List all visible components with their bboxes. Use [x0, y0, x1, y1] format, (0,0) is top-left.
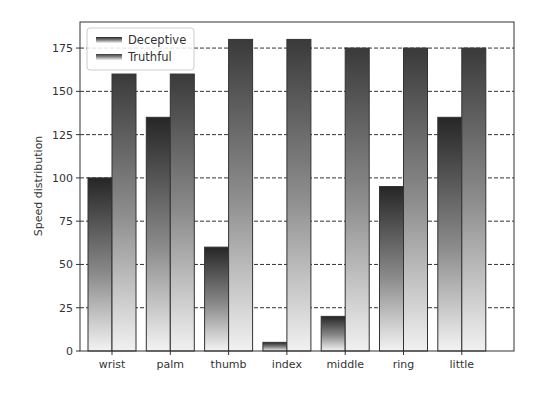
x-tick-label: thumb — [211, 358, 247, 371]
bars — [88, 39, 486, 351]
bar-deceptive-little — [438, 117, 462, 351]
y-tick-label: 150 — [52, 85, 73, 98]
y-tick-label: 75 — [59, 215, 73, 228]
bar-deceptive-ring — [380, 187, 404, 351]
y-tick-label: 125 — [52, 129, 73, 142]
bar-deceptive-index — [263, 342, 287, 351]
y-tick-label: 0 — [66, 345, 73, 358]
x-tick-label: palm — [157, 358, 185, 371]
bar-truthful-middle — [345, 48, 369, 351]
y-tick-label: 175 — [52, 42, 73, 55]
y-axis-label: Speed distribution — [32, 136, 45, 237]
x-tick-label: little — [450, 358, 475, 371]
bar-truthful-ring — [404, 48, 428, 351]
legend-label-deceptive: Deceptive — [128, 33, 186, 47]
bar-truthful-little — [462, 48, 486, 351]
legend: Deceptive Truthful — [87, 28, 194, 70]
x-tick-label: index — [272, 358, 303, 371]
x-tick-label: wrist — [99, 358, 126, 371]
bar-deceptive-middle — [321, 316, 345, 351]
x-tick-label: ring — [393, 358, 415, 371]
y-tick-label: 25 — [59, 302, 73, 315]
bar-deceptive-thumb — [205, 247, 229, 351]
bar-truthful-thumb — [229, 39, 253, 351]
bar-deceptive-wrist — [88, 178, 112, 351]
bar-deceptive-palm — [146, 117, 170, 351]
bar-chart: 0255075100125150175 wristpalmthumbindexm… — [0, 0, 543, 395]
legend-label-truthful: Truthful — [127, 50, 172, 64]
legend-swatch-deceptive — [96, 37, 122, 43]
bar-truthful-palm — [170, 74, 194, 351]
bar-truthful-wrist — [112, 74, 136, 351]
y-axis: 0255075100125150175 — [52, 42, 80, 358]
x-tick-label: middle — [326, 358, 364, 371]
legend-swatch-truthful — [96, 54, 122, 60]
y-tick-label: 100 — [52, 172, 73, 185]
y-tick-label: 50 — [59, 258, 73, 271]
x-axis: wristpalmthumbindexmiddleringlittle — [99, 351, 475, 371]
bar-truthful-index — [287, 39, 311, 351]
